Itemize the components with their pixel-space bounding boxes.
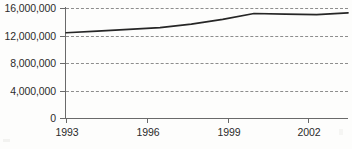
- scan-artifact: [339, 129, 343, 135]
- series-layer: [0, 0, 352, 149]
- data-line-value: [66, 13, 348, 33]
- line-chart: 16,000,000 12,000,000 8,000,000 4,000,00…: [0, 0, 352, 149]
- scan-artifact: [3, 139, 10, 142]
